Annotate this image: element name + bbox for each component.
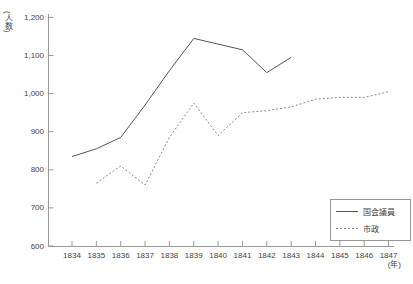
- y-tick-label: 1,000: [24, 89, 45, 98]
- x-tick-label: 1836: [112, 251, 130, 260]
- series-line-1: [96, 92, 388, 185]
- x-tick-label: 1840: [209, 251, 227, 260]
- y-tick-label: 700: [31, 203, 45, 212]
- x-tick-label: 1844: [307, 251, 325, 260]
- x-tick-label: 1838: [161, 251, 179, 260]
- y-tick-label: 600: [31, 242, 45, 251]
- y-axis-unit-label: (人数): [3, 11, 11, 32]
- x-tick-label: 1845: [331, 251, 349, 260]
- legend-label-city-government: 市政: [363, 224, 379, 234]
- y-axis-ticks: 6007008009001,0001,1001,200: [24, 13, 54, 251]
- x-tick-label: 1847: [380, 251, 398, 260]
- x-tick-label: 1841: [234, 251, 252, 260]
- y-tick-label: 1,100: [24, 51, 45, 60]
- legend-label-diet-members: 国会議員: [363, 207, 395, 217]
- legend-box: [331, 200, 411, 241]
- chart-container: 6007008009001,0001,1001,200 183418351836…: [0, 0, 413, 284]
- line-chart-svg: 6007008009001,0001,1001,200 183418351836…: [0, 0, 413, 284]
- x-tick-label: 1834: [63, 251, 81, 260]
- x-tick-label: 1846: [355, 251, 373, 260]
- x-axis-unit-label: (年): [388, 259, 402, 269]
- x-tick-label: 1837: [136, 251, 154, 260]
- legend: 国会議員 市政: [331, 200, 411, 241]
- x-tick-label: 1843: [282, 251, 300, 260]
- x-axis-ticks: 1834183518361837183818391840184118421843…: [63, 241, 398, 260]
- x-tick-label: 1835: [87, 251, 105, 260]
- x-tick-label: 1842: [258, 251, 276, 260]
- y-tick-label: 1,200: [24, 13, 45, 22]
- y-tick-label: 900: [31, 127, 45, 136]
- x-tick-label: 1839: [185, 251, 203, 260]
- y-tick-label: 800: [31, 165, 45, 174]
- plot-lines: [72, 38, 389, 185]
- series-line-0: [72, 38, 291, 156]
